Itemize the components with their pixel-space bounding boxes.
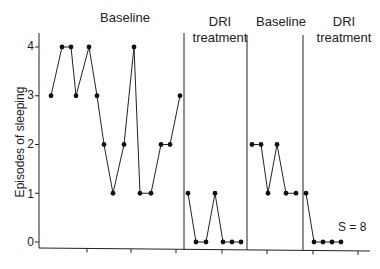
y-tick-label-4: 4 bbox=[20, 39, 34, 53]
y-ticks bbox=[35, 47, 39, 242]
data-point bbox=[159, 142, 164, 147]
data-point bbox=[122, 142, 127, 147]
y-tick-label-3: 3 bbox=[20, 88, 34, 102]
data-point bbox=[275, 142, 280, 147]
data-point bbox=[304, 191, 309, 196]
phase-label-dri-1-line1: DRI bbox=[190, 14, 250, 30]
data-point bbox=[168, 142, 173, 147]
data-point bbox=[230, 240, 235, 245]
phase-label-dri-2-line1: DRI bbox=[312, 14, 376, 30]
y-tick-label-1: 1 bbox=[20, 187, 34, 201]
data-point bbox=[49, 93, 54, 98]
phase-label-dri-1: DRI treatment bbox=[190, 14, 250, 46]
data-point bbox=[259, 142, 264, 147]
phase-series-line bbox=[51, 47, 180, 193]
data-point bbox=[213, 191, 218, 196]
data-point bbox=[138, 191, 143, 196]
subject-annotation: S = 8 bbox=[338, 220, 366, 234]
data-point bbox=[339, 240, 344, 245]
data-point bbox=[95, 93, 100, 98]
data-point bbox=[178, 93, 183, 98]
data-point bbox=[312, 240, 317, 245]
data-point bbox=[194, 240, 199, 245]
phase-label-dri-1-line2: treatment bbox=[190, 30, 250, 46]
data-point bbox=[186, 191, 191, 196]
data-point bbox=[149, 191, 154, 196]
data-point bbox=[321, 240, 326, 245]
phase-label-baseline-2: Baseline bbox=[252, 14, 310, 30]
data-point bbox=[60, 45, 65, 50]
data-point bbox=[111, 191, 116, 196]
phase-label-dri-2-line2: treatment bbox=[312, 30, 376, 46]
phase-label-dri-2: DRI treatment bbox=[312, 14, 376, 46]
phase-series-line bbox=[306, 193, 341, 242]
data-series bbox=[49, 45, 344, 245]
data-point bbox=[204, 240, 209, 245]
data-point bbox=[239, 240, 244, 245]
x-axis bbox=[39, 248, 370, 251]
data-point bbox=[132, 45, 137, 50]
data-point bbox=[102, 142, 107, 147]
data-point bbox=[250, 142, 255, 147]
phase-series-line bbox=[188, 193, 241, 242]
data-point bbox=[221, 240, 226, 245]
data-point bbox=[69, 45, 74, 50]
y-tick-label-0: 0 bbox=[20, 235, 34, 249]
phase-series-line bbox=[252, 145, 296, 194]
axes bbox=[35, 33, 370, 255]
phase-label-baseline-1: Baseline bbox=[85, 10, 165, 26]
phase-change-lines bbox=[184, 33, 303, 250]
data-point bbox=[87, 45, 92, 50]
y-tick-label-2: 2 bbox=[20, 137, 34, 151]
data-point bbox=[74, 93, 79, 98]
data-point bbox=[284, 191, 289, 196]
data-point bbox=[294, 191, 299, 196]
data-point bbox=[266, 191, 271, 196]
data-point bbox=[330, 240, 335, 245]
